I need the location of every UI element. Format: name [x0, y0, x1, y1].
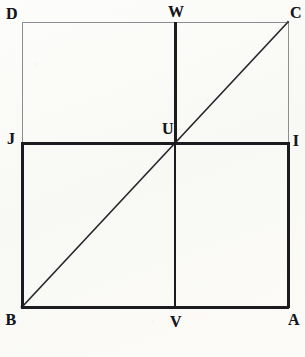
vertex-label-U: U [162, 121, 174, 137]
vertex-label-W: W [168, 4, 184, 20]
vertex-label-V: V [170, 314, 182, 330]
vertex-label-B: B [6, 312, 17, 328]
vertex-label-A: A [288, 312, 300, 328]
vertex-label-J: J [7, 131, 15, 147]
vertex-point-C [287, 21, 289, 23]
vertex-label-C: C [290, 5, 302, 21]
vertex-label-I: I [293, 133, 299, 149]
geometry-drawing [0, 0, 305, 357]
geometry-figure: D W C J U I B V A [0, 0, 305, 357]
vertex-point-B [21, 306, 24, 309]
segment-BC-diagonal [22, 22, 288, 307]
vertex-label-D: D [6, 6, 18, 22]
vertex-point-U [173, 141, 176, 144]
